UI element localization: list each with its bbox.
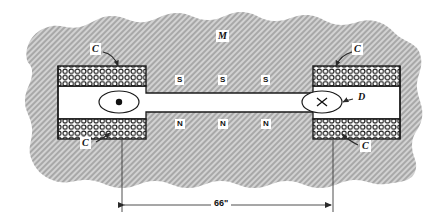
current-into-page-symbol: [302, 91, 342, 113]
label-conductor-top-left: C: [90, 43, 101, 55]
label-conductor-bottom-left: C: [80, 137, 91, 149]
current-out-of-page-symbol: [99, 91, 139, 113]
pole-label-south-2: S: [218, 75, 227, 85]
pole-label-south-1: S: [175, 75, 184, 85]
figure-canvas: M C C C C D S S S N N N 66": [0, 0, 438, 224]
label-conductor-top-right: C: [352, 43, 363, 55]
pole-label-south-3: S: [261, 75, 270, 85]
label-medium-m: M: [216, 30, 229, 42]
dimension-label: 66": [211, 199, 231, 208]
pole-label-north-2: N: [218, 119, 228, 129]
pole-label-north-3: N: [261, 119, 271, 129]
label-conductor-bottom-right: C: [360, 140, 371, 152]
label-disc-d: D: [356, 91, 367, 103]
pole-label-north-1: N: [175, 119, 185, 129]
